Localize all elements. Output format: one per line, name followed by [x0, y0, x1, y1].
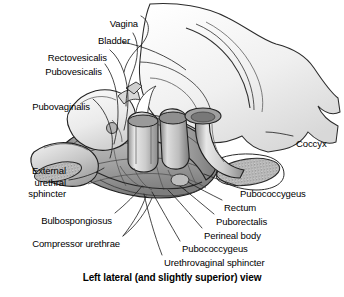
label-pubovesicalis: Pubovesicalis [45, 66, 102, 78]
rectum-lumen-inner [191, 112, 215, 122]
perineal-body [171, 174, 189, 186]
label-coccyx: Coccyx [296, 138, 327, 150]
label-vagina: Vagina [110, 18, 138, 30]
anatomy-illustration [0, 0, 344, 297]
vagina-lumen [159, 112, 187, 124]
figure-caption: Left lateral (and slightly superior) vie… [0, 272, 344, 283]
anatomy-figure: Vagina Bladder Rectovesicalis Pubovesica… [0, 0, 344, 297]
label-pubococcygeus-upper: Pubococcygeus [240, 188, 306, 200]
label-bladder: Bladder [98, 35, 130, 47]
label-compressor-urethrae: Compressor urethrae [32, 238, 120, 250]
leader-pubococcygeus-lower [152, 192, 180, 241]
label-puborectalis: Puborectalis [216, 216, 267, 228]
label-perineal-body: Perineal body [204, 230, 261, 242]
label-rectovesicalis: Rectovesicalis [48, 52, 107, 64]
urethra-lumen [128, 115, 158, 127]
label-external-urethral-sphincter: External urethral sphincter [28, 165, 66, 200]
label-rectum: Rectum [224, 202, 256, 214]
ureteric-orifice [107, 123, 118, 134]
label-bulbospongiosus: Bulbospongiosus [41, 215, 112, 227]
label-pubococcygeus-lower: Pubococcygeus [182, 243, 248, 255]
label-urethrovaginal-sphincter: Urethrovaginal sphincter [164, 257, 265, 269]
label-pubovaginalis: Pubovaginalis [32, 101, 90, 113]
leader-urethrovaginal-sphincter [144, 194, 162, 255]
